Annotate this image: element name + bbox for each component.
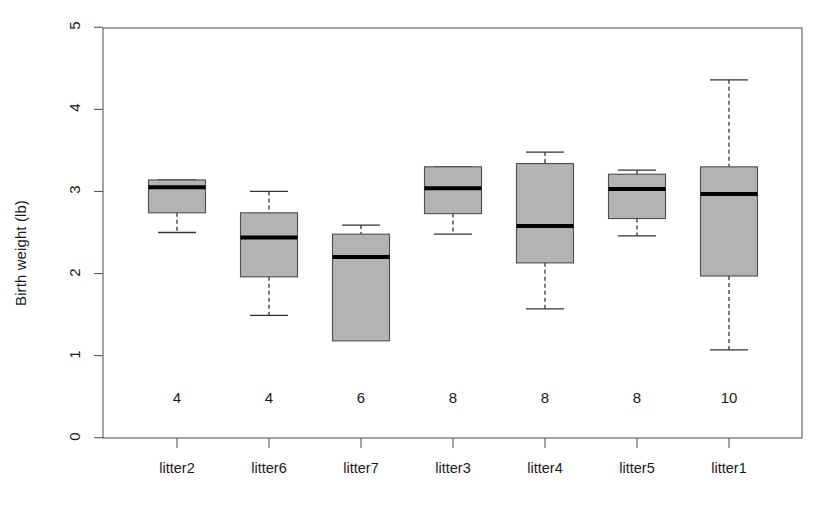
boxplot-group <box>517 152 574 309</box>
y-tick-label: 3 <box>66 177 83 203</box>
x-tick-label: litter4 <box>495 460 595 476</box>
boxplot-group <box>333 225 390 341</box>
box-iqr <box>425 167 482 214</box>
boxplot-chart: Birth weight (lb) 012345 litter2litter6l… <box>0 0 815 506</box>
x-tick-label: litter1 <box>679 460 779 476</box>
y-tick-label: 5 <box>66 13 83 39</box>
x-tick-label: litter5 <box>587 460 687 476</box>
boxplot-group <box>609 170 666 236</box>
x-tick-label: litter3 <box>403 460 503 476</box>
boxplot-group <box>149 180 206 233</box>
y-tick-label: 4 <box>66 95 83 121</box>
box-iqr <box>517 164 574 263</box>
plot-canvas <box>0 0 815 506</box>
box-iqr <box>149 180 206 213</box>
y-tick-label: 2 <box>66 259 83 285</box>
boxplot-group <box>425 167 482 234</box>
group-count-label: 4 <box>147 389 207 406</box>
group-count-label: 8 <box>607 389 667 406</box>
x-tick-label: litter2 <box>127 460 227 476</box>
y-tick-label: 0 <box>66 423 83 449</box>
y-tick-label: 1 <box>66 341 83 367</box>
box-iqr <box>701 167 758 276</box>
x-tick-label: litter6 <box>219 460 319 476</box>
box-iqr <box>333 234 390 341</box>
box-iqr <box>241 213 298 277</box>
group-count-label: 6 <box>331 389 391 406</box>
box-layer <box>149 80 758 350</box>
axis-layer <box>94 27 802 448</box>
box-iqr <box>609 174 666 218</box>
plot-frame <box>103 28 802 438</box>
group-count-label: 8 <box>515 389 575 406</box>
boxplot-group <box>701 80 758 350</box>
group-count-label: 8 <box>423 389 483 406</box>
group-count-label: 10 <box>699 389 759 406</box>
boxplot-group <box>241 191 298 315</box>
group-count-label: 4 <box>239 389 299 406</box>
x-tick-label: litter7 <box>311 460 411 476</box>
